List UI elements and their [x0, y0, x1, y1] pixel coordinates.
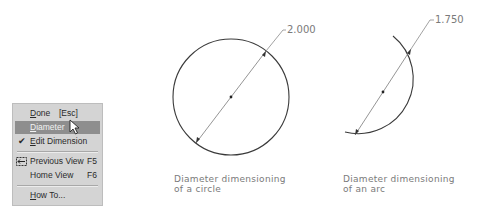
arc-caption: Diameter dimensioning of an arc: [343, 174, 455, 194]
circle-dimension-value: 2.000: [287, 24, 316, 35]
arc-dimension-value: 1.750: [435, 14, 464, 25]
arc-geometry: [345, 36, 413, 134]
circle-diameter-drawing: [173, 30, 289, 155]
arc-diameter-drawing: [345, 20, 434, 135]
center-point: [230, 96, 233, 99]
center-point: [382, 91, 385, 94]
circle-caption: Diameter dimensioning of a circle: [174, 174, 286, 194]
leader-line: [266, 30, 283, 51]
leader-line: [411, 20, 430, 49]
